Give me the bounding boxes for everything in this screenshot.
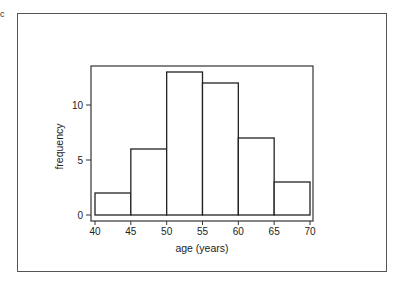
y-tick-label: 5 (77, 155, 83, 166)
x-tick-label: 50 (161, 226, 173, 237)
y-axis-label: frequency (53, 123, 65, 170)
x-tick-label: 40 (89, 226, 101, 237)
y-tick-label: 0 (77, 210, 83, 221)
histogram-bar (131, 149, 167, 215)
y-tick-label: 10 (72, 100, 84, 111)
x-tick-label: 60 (233, 226, 245, 237)
histogram-bar (274, 182, 310, 215)
histogram-bar (95, 193, 131, 215)
x-tick-label: 55 (197, 226, 209, 237)
x-tick-label: 65 (269, 226, 281, 237)
histogram-chart: 051040455055606570age (years)frequency (0, 0, 405, 285)
x-tick-label: 45 (125, 226, 137, 237)
x-axis-label: age (years) (175, 242, 228, 254)
histogram-bar (167, 72, 203, 215)
histogram-bar (203, 83, 239, 215)
histogram-bar (238, 138, 274, 215)
x-tick-label: 70 (304, 226, 316, 237)
